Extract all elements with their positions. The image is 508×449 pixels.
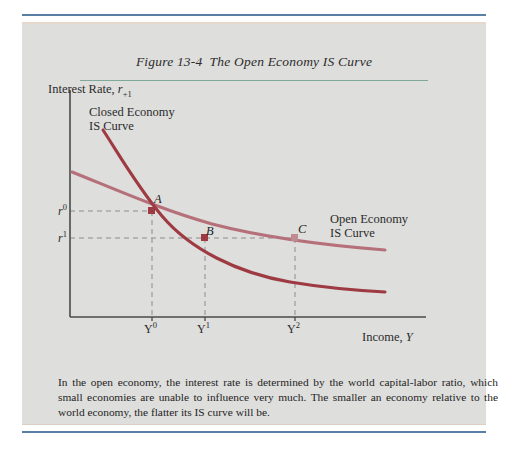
point-label-b: B (206, 224, 214, 239)
closed-economy-label-sc: IS (89, 119, 100, 133)
point-marker-c (291, 234, 298, 241)
x-axis-title: Income, Y (362, 330, 413, 345)
x-tick-Y0-sup: 0 (153, 320, 157, 330)
y-tick-label-r0: r0 (58, 202, 67, 219)
figure-caption: In the open economy, the interest rate i… (58, 375, 498, 421)
x-tick-Y2-var: Y (287, 322, 296, 336)
point-label-a: A (154, 192, 162, 207)
x-axis-title-var: Y (406, 330, 413, 344)
point-label-c: C (298, 222, 306, 237)
x-tick-label-Y0: Y0 (144, 320, 157, 337)
point-marker-a (148, 207, 155, 214)
closed-economy-label: Closed EconomyIS Curve (89, 105, 175, 133)
x-tick-Y1-sup: 1 (206, 320, 210, 330)
chart-plot-area: Interest Rate, r+1 Income, Y Closed Econ… (22, 24, 486, 424)
y-axis-title: Interest Rate, r+1 (48, 82, 132, 99)
figure-page: Figure 13-4 The Open Economy IS Curve (0, 0, 508, 449)
y-axis-title-sub: +1 (123, 89, 132, 99)
open-economy-label: Open EconomyIS Curve (330, 212, 408, 240)
open-economy-label-sc: IS (330, 226, 341, 240)
x-axis-title-text: Income, (362, 330, 406, 344)
x-tick-label-Y1: Y1 (197, 320, 210, 337)
x-tick-Y2-sup: 2 (296, 320, 300, 330)
y-tick-r1-sup: 1 (63, 229, 67, 239)
figure-panel: Figure 13-4 The Open Economy IS Curve (22, 24, 486, 424)
y-tick-label-r1: r1 (58, 229, 67, 246)
bottom-rule-thin (22, 424, 486, 425)
top-rule (22, 14, 486, 16)
y-axis-title-text: Interest Rate, (48, 82, 118, 96)
x-tick-Y1-var: Y (197, 322, 206, 336)
open-economy-label-line1: Open Economy (330, 212, 408, 226)
x-tick-label-Y2: Y2 (287, 320, 300, 337)
x-tick-Y0-var: Y (144, 322, 153, 336)
closed-economy-label-line1: Closed Economy (89, 105, 175, 119)
open-economy-label-line2: Curve (341, 226, 375, 240)
closed-economy-label-line2: Curve (100, 119, 134, 133)
bottom-rule (22, 431, 486, 433)
y-tick-r0-sup: 0 (63, 202, 67, 212)
